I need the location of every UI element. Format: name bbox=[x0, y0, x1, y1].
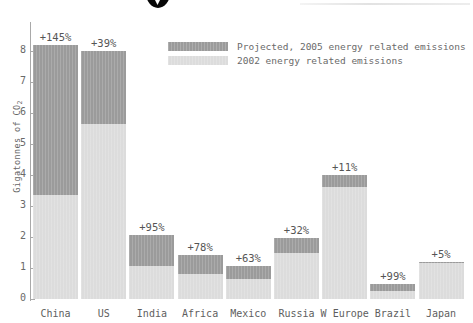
bar-percent-label: +63% bbox=[236, 252, 261, 264]
bar-group[interactable]: +5%Japan bbox=[419, 262, 464, 300]
bar-segment-2002[interactable] bbox=[274, 253, 319, 300]
x-axis-category-label: India bbox=[137, 308, 167, 319]
bar-segment-projected-2005[interactable] bbox=[33, 45, 78, 195]
bar-segment-projected-2005[interactable] bbox=[226, 266, 271, 279]
x-axis-category-label: Brazil bbox=[375, 308, 411, 319]
bar-group[interactable]: +78%Africa bbox=[178, 255, 223, 299]
legend-swatch bbox=[168, 42, 228, 51]
x-axis-category-label: Africa bbox=[182, 308, 218, 319]
legend-item[interactable]: 2002 energy related emissions bbox=[168, 55, 466, 66]
bar-group[interactable]: +145%China bbox=[33, 45, 78, 299]
legend-label: Projected, 2005 energy related emissions bbox=[237, 41, 466, 52]
bar-segment-2002[interactable] bbox=[370, 291, 415, 299]
bar-percent-label: +39% bbox=[91, 37, 116, 49]
bar-percent-label: +145% bbox=[40, 31, 72, 43]
bar-segment-projected-2005[interactable] bbox=[370, 284, 415, 292]
emissions-bar-chart: Gigatonnes of CO2 012345678 +145%China+3… bbox=[0, 0, 473, 323]
bar-segment-2002[interactable] bbox=[33, 195, 78, 299]
x-axis-category-label: US bbox=[98, 308, 110, 319]
bar-percent-label: +95% bbox=[139, 221, 164, 233]
x-axis-category-label: Russia bbox=[278, 308, 314, 319]
bar-segment-2002[interactable] bbox=[178, 274, 223, 299]
x-axis-category-label: China bbox=[40, 308, 70, 319]
bar-group[interactable]: +95%India bbox=[129, 235, 174, 299]
bar-segment-2002[interactable] bbox=[226, 279, 271, 299]
chart-legend: Projected, 2005 energy related emissions… bbox=[168, 41, 466, 69]
legend-swatch bbox=[168, 56, 228, 65]
legend-item[interactable]: Projected, 2005 energy related emissions bbox=[168, 41, 466, 52]
bar-percent-label: +32% bbox=[284, 224, 309, 236]
bar-segment-2002[interactable] bbox=[129, 266, 174, 299]
bar-segment-projected-2005[interactable] bbox=[81, 51, 126, 124]
bar-segment-2002[interactable] bbox=[322, 187, 367, 299]
bar-segment-projected-2005[interactable] bbox=[178, 255, 223, 274]
bar-group[interactable]: +11%W Europe bbox=[322, 175, 367, 299]
bar-group[interactable]: +63%Mexico bbox=[226, 266, 271, 299]
bar-segment-2002[interactable] bbox=[81, 124, 126, 299]
bar-group[interactable]: +99%Brazil bbox=[370, 284, 415, 300]
bar-group[interactable]: +39%US bbox=[81, 51, 126, 299]
bar-percent-label: +78% bbox=[187, 241, 212, 253]
bar-segment-projected-2005[interactable] bbox=[129, 235, 174, 266]
bar-percent-label: +99% bbox=[380, 270, 405, 282]
bar-segment-projected-2005[interactable] bbox=[274, 238, 319, 253]
bar-segment-2002[interactable] bbox=[419, 263, 464, 299]
x-axis-category-label: W Europe bbox=[321, 308, 369, 319]
bar-percent-label: +5% bbox=[432, 248, 451, 260]
x-axis-category-label: Japan bbox=[426, 308, 456, 319]
bar-segment-projected-2005[interactable] bbox=[322, 175, 367, 187]
x-axis-category-label: Mexico bbox=[230, 308, 266, 319]
legend-label: 2002 energy related emissions bbox=[237, 55, 403, 66]
bar-percent-label: +11% bbox=[332, 161, 357, 173]
bar-group[interactable]: +32%Russia bbox=[274, 238, 319, 299]
